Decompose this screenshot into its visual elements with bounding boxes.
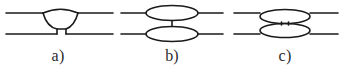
panel-a-body-top-arc — [43, 9, 78, 13]
panel-c-upper-ellipse — [260, 10, 310, 24]
panel-b-upper-ellipse — [146, 6, 198, 21]
panel-c-lower-ellipse — [260, 24, 310, 38]
panel-a-diagram — [0, 0, 116, 46]
panel-b-label: b) — [116, 46, 228, 66]
panel-c-diagram — [228, 0, 342, 46]
panel-b-diagram — [116, 0, 228, 46]
panel-b-lower-ellipse — [146, 27, 198, 42]
panel-c-label: c) — [228, 46, 342, 66]
panel-a-body-bowl — [43, 13, 78, 29]
figure-panel-b: b) — [116, 0, 228, 76]
figure-container: a) b) — [0, 0, 342, 76]
figure-panel-c: c) — [228, 0, 342, 76]
panel-a-label: a) — [0, 46, 116, 66]
figure-panel-a: a) — [0, 0, 116, 76]
